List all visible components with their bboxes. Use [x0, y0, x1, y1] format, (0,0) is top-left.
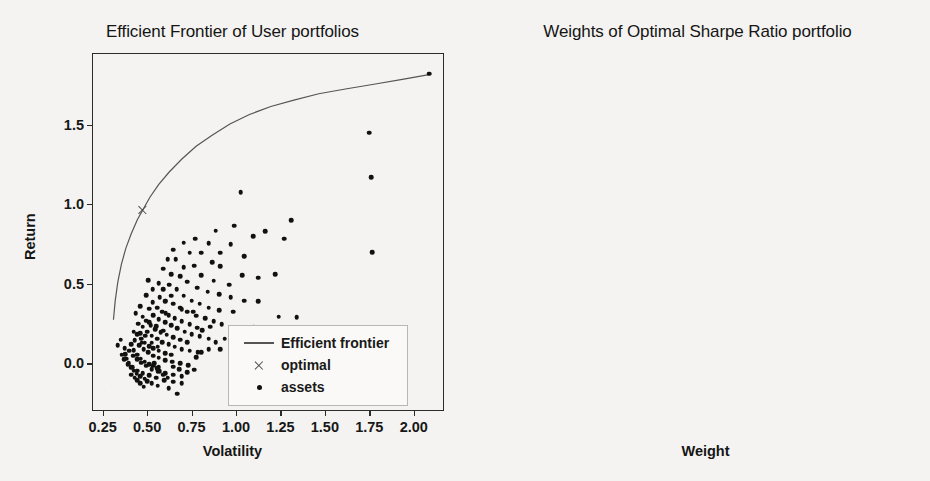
scatter-x-tick-mark: [192, 411, 193, 416]
dot-marker-icon: [237, 385, 281, 390]
asset-point: [199, 350, 204, 355]
asset-point: [276, 314, 281, 319]
asset-point: [130, 365, 135, 370]
asset-point: [194, 355, 199, 360]
asset-point: [177, 367, 182, 372]
scatter-x-tick-mark: [147, 411, 148, 416]
scatter-panel: Efficient Frontier of User portfolios Re…: [0, 0, 465, 481]
asset-point: [206, 241, 211, 246]
scatter-x-tick-label: 1.50: [311, 419, 339, 435]
scatter-legend: Efficient frontier optimal assets: [228, 325, 408, 406]
asset-point: [195, 286, 200, 291]
asset-point: [185, 279, 190, 284]
asset-point: [143, 333, 148, 338]
scatter-x-tick-label: 2.00: [400, 419, 428, 435]
asset-point: [217, 308, 222, 313]
asset-point: [154, 324, 159, 329]
asset-point: [185, 309, 190, 314]
asset-point: [256, 299, 261, 304]
asset-point: [180, 319, 185, 324]
bar-panel: Weights of Optimal Sharpe Ratio portfoli…: [465, 0, 930, 481]
asset-point: [147, 373, 152, 378]
asset-point: [197, 302, 202, 307]
asset-point: [138, 331, 143, 336]
line-swatch-icon: [237, 342, 281, 343]
asset-point: [171, 372, 176, 377]
asset-point: [171, 302, 176, 307]
asset-point: [192, 368, 197, 373]
scatter-x-tick-label: 1.25: [266, 419, 294, 435]
asset-point: [193, 236, 198, 241]
asset-point: [167, 282, 172, 287]
asset-point: [273, 272, 278, 277]
asset-point: [151, 353, 156, 358]
asset-point: [145, 379, 150, 384]
asset-point: [231, 309, 236, 314]
scatter-y-tick-label: 1.0: [44, 196, 84, 212]
scatter-x-tick-label: 0.75: [177, 419, 205, 435]
asset-point: [175, 326, 180, 331]
asset-point: [164, 333, 169, 338]
legend-label-assets: assets: [281, 379, 325, 395]
asset-point: [228, 242, 233, 247]
asset-point: [185, 370, 190, 375]
asset-point: [135, 368, 140, 373]
asset-point: [232, 224, 237, 229]
asset-point: [282, 236, 287, 241]
asset-point: [200, 328, 205, 333]
asset-point: [161, 329, 166, 334]
asset-point: [427, 72, 432, 77]
asset-point: [174, 287, 179, 292]
asset-point: [218, 264, 223, 269]
asset-point: [189, 332, 194, 337]
cross-marker-icon: [237, 360, 281, 371]
asset-point: [163, 351, 168, 356]
asset-point: [156, 344, 161, 349]
asset-point: [166, 386, 171, 391]
asset-point: [212, 319, 217, 324]
asset-point: [192, 263, 197, 268]
asset-point: [149, 367, 154, 372]
scatter-x-tick-mark: [280, 411, 281, 416]
asset-point: [152, 361, 157, 366]
asset-point: [140, 325, 145, 330]
asset-point: [169, 272, 174, 277]
asset-point: [169, 294, 174, 299]
asset-point: [155, 337, 160, 342]
asset-point: [220, 322, 225, 327]
asset-point: [178, 337, 183, 342]
asset-point: [132, 348, 137, 353]
asset-point: [163, 320, 168, 325]
asset-point: [122, 357, 127, 362]
asset-point: [156, 383, 161, 388]
asset-point: [116, 343, 121, 348]
asset-point: [160, 340, 165, 345]
asset-point: [140, 314, 145, 319]
scatter-x-tick-mark: [325, 411, 326, 416]
asset-point: [132, 329, 137, 334]
asset-point: [218, 347, 223, 352]
asset-point: [238, 190, 243, 195]
asset-point: [161, 287, 166, 292]
asset-point: [146, 278, 151, 283]
asset-point: [151, 313, 156, 318]
asset-point: [163, 358, 168, 363]
scatter-x-tick-label: 0.25: [89, 419, 117, 435]
asset-point: [181, 240, 186, 245]
asset-point: [206, 337, 211, 342]
scatter-x-tick-label: 0.50: [133, 419, 161, 435]
asset-point: [206, 347, 211, 352]
asset-point: [150, 300, 155, 305]
asset-point: [147, 306, 152, 311]
asset-point: [208, 325, 213, 330]
asset-point: [144, 293, 149, 298]
asset-point: [210, 260, 215, 265]
legend-label-optimal: optimal: [281, 357, 331, 373]
asset-point: [118, 337, 123, 342]
scatter-x-tick-label: 1.75: [355, 419, 383, 435]
asset-point: [194, 313, 199, 318]
asset-point: [251, 234, 256, 239]
asset-point: [163, 299, 168, 304]
asset-point: [157, 295, 162, 300]
optimal-marker: [137, 204, 148, 215]
